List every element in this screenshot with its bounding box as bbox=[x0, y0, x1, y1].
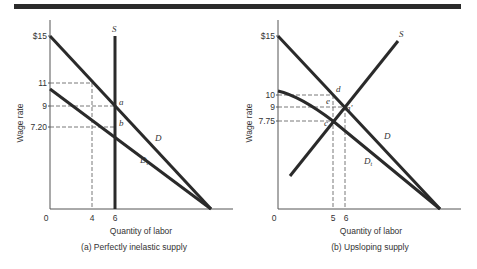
y-axis-label: Wage rate bbox=[244, 103, 254, 142]
demand-curve-dt bbox=[278, 91, 440, 209]
y-axis-label: Wage rate bbox=[15, 103, 25, 142]
x-tick-6: 6 bbox=[344, 213, 349, 223]
x-tick-4: 4 bbox=[90, 213, 95, 223]
y-tick-15: $15 bbox=[33, 31, 47, 41]
label-s: S bbox=[399, 29, 404, 39]
point-a-prime: a' bbox=[346, 103, 354, 113]
caption-a: (a) Perfectly inelastic supply bbox=[81, 242, 188, 252]
point-c: c bbox=[324, 118, 328, 128]
y-tick-10: 10 bbox=[266, 90, 276, 100]
figure: $15 11 9 7.20 0 4 6 Wage rate Quantity o… bbox=[0, 0, 477, 269]
x-tick-0: 0 bbox=[272, 213, 277, 223]
demand-curve-d bbox=[50, 36, 211, 209]
y-tick-11: 11 bbox=[38, 78, 47, 88]
point-d: d bbox=[336, 84, 341, 94]
supply-curve-s bbox=[290, 41, 398, 176]
y-tick-7-20: 7.20 bbox=[30, 122, 47, 132]
label-dt: Dt bbox=[139, 155, 149, 166]
panel-a: $15 11 9 7.20 0 4 6 Wage rate Quantity o… bbox=[15, 20, 233, 252]
y-tick-7-75: 7.75 bbox=[258, 116, 275, 126]
point-a: a bbox=[119, 97, 124, 107]
label-s: S bbox=[112, 24, 117, 34]
label-dt: Dt bbox=[363, 156, 373, 167]
point-e: e bbox=[326, 96, 330, 106]
guide-lines bbox=[50, 83, 115, 209]
label-d: D bbox=[154, 133, 162, 143]
y-tick-15: $15 bbox=[261, 31, 275, 41]
x-tick-5: 5 bbox=[331, 213, 336, 223]
panel-b: $15 10 9 7.75 0 5 6 Wage rate Quantity o… bbox=[244, 20, 461, 252]
caption-b: (b) Upsloping supply bbox=[331, 242, 409, 252]
label-d: D bbox=[383, 131, 391, 141]
demand-curve-d bbox=[278, 36, 440, 209]
point-b: b bbox=[119, 118, 124, 128]
x-axis-label: Quantity of labor bbox=[340, 226, 403, 236]
x-tick-6: 6 bbox=[113, 213, 118, 223]
y-tick-9: 9 bbox=[270, 102, 275, 112]
guide-lines bbox=[278, 95, 345, 209]
demand-curve-dt bbox=[50, 89, 211, 209]
x-tick-0: 0 bbox=[44, 213, 49, 223]
y-tick-9: 9 bbox=[42, 101, 47, 111]
x-axis-label: Quantity of labor bbox=[110, 226, 173, 236]
